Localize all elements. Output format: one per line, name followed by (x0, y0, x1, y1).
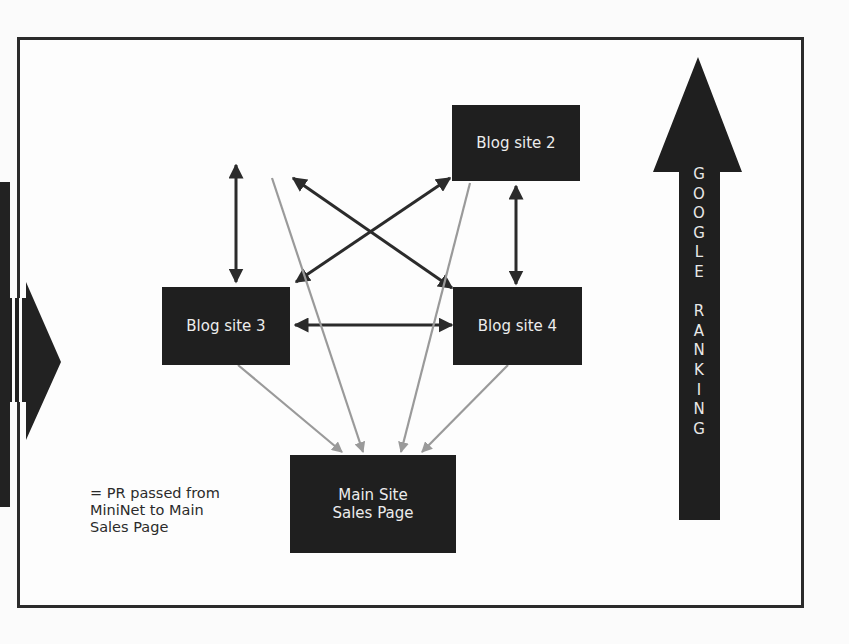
node-blog-site-3: Blog site 3 (162, 287, 290, 365)
pr-arrow-blog4-main (422, 365, 508, 452)
rank-letter: I (679, 381, 719, 401)
rank-letter: O (679, 185, 719, 205)
rank-letter: L (679, 243, 719, 263)
google-ranking-label: G O O G L E R A N K I N G (679, 165, 719, 439)
left-incoming-arrow-icon (0, 182, 61, 507)
node-label-line2: Sales Page (332, 504, 413, 522)
node-label: Blog site 3 (186, 317, 265, 335)
rank-letter: N (679, 400, 719, 420)
rank-letter: A (679, 322, 719, 342)
node-label: Blog site 2 (476, 134, 555, 152)
rank-letter (679, 283, 719, 303)
link-arrow-blog3-blog2 (296, 178, 450, 282)
legend-line-2: MiniNet to Main (90, 502, 220, 519)
node-blog-site-4: Blog site 4 (453, 287, 582, 365)
legend: = PR passed from MiniNet to Main Sales P… (90, 485, 220, 536)
pr-arrow-blog3-main (238, 365, 342, 452)
rank-letter: R (679, 302, 719, 322)
node-label-line1: Main Site (338, 486, 407, 504)
rank-letter: G (679, 224, 719, 244)
rank-letter: K (679, 361, 719, 381)
rank-letter: O (679, 204, 719, 224)
node-main-site-sales-page: Main Site Sales Page (290, 455, 456, 553)
rank-letter: G (679, 420, 719, 440)
node-label: Blog site 4 (478, 317, 557, 335)
legend-line-3: Sales Page (90, 519, 220, 536)
node-blog-site-2: Blog site 2 (452, 105, 580, 181)
legend-line-1: = PR passed from (90, 485, 220, 502)
rank-letter: E (679, 263, 719, 283)
rank-letter: N (679, 341, 719, 361)
rank-letter: G (679, 165, 719, 185)
